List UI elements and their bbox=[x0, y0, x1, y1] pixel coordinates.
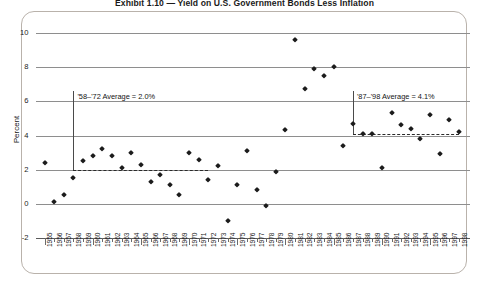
x-axis-label-1965: 1965 bbox=[143, 233, 149, 247]
x-tick-1992 bbox=[401, 238, 402, 242]
gridline-y-6 bbox=[36, 101, 471, 102]
data-point bbox=[398, 122, 404, 128]
y-tick-label-2: 2 bbox=[7, 166, 29, 174]
data-point bbox=[340, 143, 346, 149]
data-point bbox=[196, 156, 202, 162]
x-tick-1956 bbox=[54, 238, 55, 242]
x-axis-label-1984: 1984 bbox=[327, 233, 333, 247]
x-axis-label-1974: 1974 bbox=[230, 233, 236, 247]
data-point bbox=[61, 192, 67, 198]
data-point bbox=[234, 182, 240, 188]
x-axis-label-1988: 1988 bbox=[365, 233, 371, 247]
data-point bbox=[437, 151, 443, 157]
x-tick-1959 bbox=[83, 238, 84, 242]
y-tick-label-10: 10 bbox=[7, 29, 29, 37]
gridline-y-10 bbox=[36, 33, 471, 34]
x-axis-label-1964: 1964 bbox=[134, 233, 140, 247]
data-point bbox=[331, 64, 337, 70]
x-tick-1976 bbox=[247, 238, 248, 242]
x-axis-label-1966: 1966 bbox=[153, 233, 159, 247]
x-axis-label-1993: 1993 bbox=[413, 233, 419, 247]
data-point bbox=[427, 112, 433, 118]
x-axis-label-1960: 1960 bbox=[95, 233, 101, 247]
x-axis-label-1963: 1963 bbox=[124, 233, 130, 247]
data-point bbox=[138, 162, 144, 168]
right-average-label: '87–'98 Average = 4.1% bbox=[357, 92, 435, 101]
x-axis-label-1994: 1994 bbox=[423, 233, 429, 247]
data-point bbox=[302, 86, 308, 92]
data-point bbox=[147, 179, 153, 185]
x-axis-label-1978: 1978 bbox=[269, 233, 275, 247]
y-tick-label-6: 6 bbox=[7, 97, 29, 105]
x-axis-label-1970: 1970 bbox=[192, 233, 198, 247]
gridline-y-0 bbox=[36, 204, 471, 205]
y-tick-label-4: 4 bbox=[7, 132, 29, 140]
x-tick-1995 bbox=[430, 238, 431, 245]
x-axis-label-1990: 1990 bbox=[384, 233, 390, 247]
x-axis-label-1987: 1987 bbox=[356, 233, 362, 247]
x-axis-label-1997: 1997 bbox=[452, 233, 458, 247]
x-axis-label-1989: 1989 bbox=[375, 233, 381, 247]
y-tick-label--2: -2 bbox=[7, 234, 29, 242]
data-point bbox=[186, 150, 192, 156]
data-point bbox=[350, 121, 356, 127]
y-axis-title: Percent bbox=[12, 100, 21, 160]
x-axis-label-1991: 1991 bbox=[394, 233, 400, 247]
data-point bbox=[388, 110, 394, 116]
x-axis-label-1985: 1985 bbox=[336, 233, 342, 247]
gridline-y-8 bbox=[36, 67, 471, 68]
x-tick-1981 bbox=[295, 238, 296, 242]
x-axis-label-1967: 1967 bbox=[163, 233, 169, 247]
x-axis-label-1976: 1976 bbox=[250, 233, 256, 247]
x-axis-label-1962: 1962 bbox=[115, 233, 121, 247]
data-point bbox=[157, 172, 163, 178]
data-point bbox=[446, 117, 452, 123]
x-axis-label-1972: 1972 bbox=[211, 233, 217, 247]
x-axis-label-1958: 1958 bbox=[76, 233, 82, 247]
data-point bbox=[80, 158, 86, 164]
x-axis-label-1980: 1980 bbox=[288, 233, 294, 247]
data-point bbox=[282, 127, 288, 133]
x-axis-label-1992: 1992 bbox=[404, 233, 410, 247]
data-point bbox=[128, 150, 134, 156]
x-axis-label-1979: 1979 bbox=[278, 233, 284, 247]
x-axis-label-1971: 1971 bbox=[201, 233, 207, 247]
data-point bbox=[408, 126, 414, 132]
x-tick-1984 bbox=[324, 238, 325, 242]
left-average-label-vertical-rule bbox=[73, 91, 74, 170]
data-point bbox=[225, 218, 231, 224]
x-axis-label-1968: 1968 bbox=[172, 233, 178, 247]
data-point bbox=[41, 160, 47, 166]
x-axis-label-1996: 1996 bbox=[442, 233, 448, 247]
plot-area: Percent -2024681019551956195719581959196… bbox=[0, 0, 489, 287]
data-point bbox=[292, 37, 298, 43]
x-axis-label-1957: 1957 bbox=[66, 233, 72, 247]
data-point bbox=[176, 192, 182, 198]
y-tick-label-8: 8 bbox=[7, 63, 29, 71]
x-axis-label-1975: 1975 bbox=[240, 233, 246, 247]
y-tick-label-0: 0 bbox=[7, 200, 29, 208]
x-axis-label-1977: 1977 bbox=[259, 233, 265, 247]
x-tick-1970 bbox=[189, 238, 190, 245]
data-point bbox=[253, 187, 259, 193]
x-axis-label-1969: 1969 bbox=[182, 233, 188, 247]
x-axis-label-1973: 1973 bbox=[221, 233, 227, 247]
x-axis-label-1986: 1986 bbox=[346, 233, 352, 247]
data-point bbox=[205, 177, 211, 183]
data-point bbox=[244, 148, 250, 154]
x-tick-1998 bbox=[459, 238, 460, 242]
x-axis-label-1961: 1961 bbox=[105, 233, 111, 247]
x-tick-1962 bbox=[112, 238, 113, 242]
data-point bbox=[321, 73, 327, 79]
x-tick-1973 bbox=[218, 238, 219, 242]
x-axis-label-1955: 1955 bbox=[47, 233, 53, 247]
data-point bbox=[215, 163, 221, 169]
right-average-label-vertical-rule bbox=[353, 91, 354, 134]
data-point bbox=[109, 153, 115, 159]
x-axis-label-1956: 1956 bbox=[57, 233, 63, 247]
x-axis-label-1983: 1983 bbox=[317, 233, 323, 247]
x-axis-label-1981: 1981 bbox=[298, 233, 304, 247]
x-tick-1987 bbox=[353, 238, 354, 242]
x-axis-label-1959: 1959 bbox=[86, 233, 92, 247]
gridline-y-4 bbox=[36, 136, 471, 137]
